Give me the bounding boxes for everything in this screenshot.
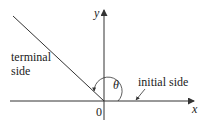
initial-side-label: initial side — [138, 75, 188, 89]
angle-diagram: y x 0 θ terminal side initial side — [0, 0, 204, 129]
theta-label: θ — [113, 78, 119, 92]
diagram-canvas: y x 0 θ terminal side initial side — [0, 0, 204, 129]
y-axis-label: y — [93, 6, 100, 20]
terminal-side-label-line1: terminal — [11, 50, 52, 64]
initial-side-pointer — [136, 89, 145, 100]
terminal-side-label-line2: side — [11, 64, 30, 78]
x-axis-label: x — [191, 102, 198, 116]
origin-label: 0 — [96, 105, 102, 119]
